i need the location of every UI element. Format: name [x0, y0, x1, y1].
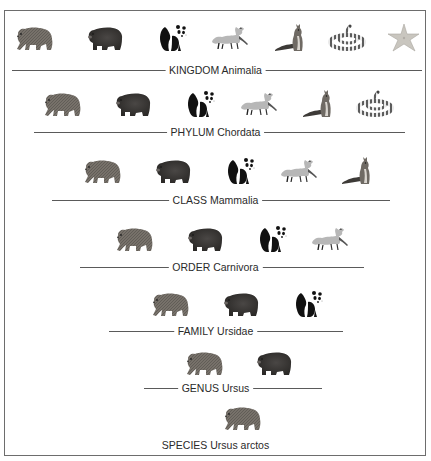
rank-label-order: ORDER Carnivora — [168, 261, 262, 273]
panda-illustration — [289, 288, 331, 320]
rank-label-genus: GENUS Ursus — [178, 382, 254, 394]
snake-illustration — [354, 88, 396, 120]
black-bear-icon — [253, 347, 295, 379]
black-bear-illustration — [220, 288, 262, 320]
fox-icon — [238, 88, 280, 120]
black-bear-illustration — [253, 347, 295, 379]
fox-illustration — [238, 88, 280, 120]
black-bear-icon — [152, 155, 194, 187]
fox-icon — [278, 155, 320, 187]
rank-label-family: FAMILY Ursidae — [174, 325, 257, 337]
brown-bear-icon — [14, 22, 56, 54]
fox-icon — [209, 22, 251, 54]
brown-bear-icon — [150, 288, 192, 320]
rank-label-phylum: PHYLUM Chordata — [167, 126, 265, 138]
rank-label-species: SPECIES Ursus arctos — [158, 439, 273, 451]
brown-bear-illustration — [82, 155, 124, 187]
black-bear-illustration — [112, 88, 154, 120]
snake-illustration — [326, 22, 368, 54]
brown-bear-icon — [82, 155, 124, 187]
squirrel-icon — [339, 155, 381, 187]
squirrel-icon — [272, 22, 314, 54]
snake-icon — [326, 22, 368, 54]
panda-icon — [253, 223, 295, 255]
black-bear-illustration — [184, 223, 226, 255]
snake-icon — [354, 88, 396, 120]
black-bear-icon — [184, 223, 226, 255]
brown-bear-illustration — [14, 22, 56, 54]
panda-icon — [289, 288, 331, 320]
panda-illustration — [221, 155, 263, 187]
panda-icon — [181, 88, 223, 120]
black-bear-illustration — [152, 155, 194, 187]
rank-label-kingdom: KINGDOM Animalia — [165, 64, 266, 76]
fox-icon — [309, 223, 351, 255]
black-bear-icon — [84, 22, 126, 54]
brown-bear-illustration — [222, 402, 264, 434]
brown-bear-icon — [114, 223, 156, 255]
squirrel-illustration — [272, 22, 314, 54]
rank-label-class: CLASS Mammalia — [169, 194, 263, 206]
fox-illustration — [309, 223, 351, 255]
brown-bear-illustration — [114, 223, 156, 255]
brown-bear-illustration — [184, 347, 226, 379]
brown-bear-icon — [42, 88, 84, 120]
black-bear-icon — [220, 288, 262, 320]
fox-illustration — [278, 155, 320, 187]
black-bear-icon — [112, 88, 154, 120]
black-bear-illustration — [84, 22, 126, 54]
brown-bear-illustration — [42, 88, 84, 120]
squirrel-illustration — [300, 88, 342, 120]
panda-illustration — [253, 223, 295, 255]
squirrel-icon — [300, 88, 342, 120]
starfish-illustration — [382, 22, 424, 54]
starfish-icon — [382, 22, 424, 54]
brown-bear-icon — [222, 402, 264, 434]
panda-illustration — [153, 22, 195, 54]
brown-bear-illustration — [150, 288, 192, 320]
fox-illustration — [209, 22, 251, 54]
brown-bear-icon — [184, 347, 226, 379]
panda-icon — [153, 22, 195, 54]
panda-icon — [221, 155, 263, 187]
panda-illustration — [181, 88, 223, 120]
squirrel-illustration — [339, 155, 381, 187]
